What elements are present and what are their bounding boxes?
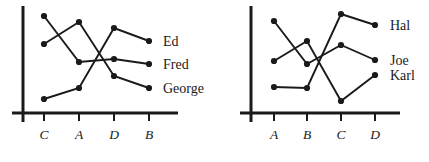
legend-label-george: George [163, 81, 204, 96]
data-point [111, 56, 117, 62]
x-tick-label-1: A [269, 127, 279, 142]
legend-label-karl: Karl [390, 68, 415, 83]
series-line-george [44, 22, 149, 88]
data-point [76, 85, 82, 91]
chart-right-svg: A B C D Hal Joe Karl [215, 0, 429, 162]
chart-panel-right: A B C D Hal Joe Karl [215, 0, 429, 162]
data-point [146, 61, 152, 67]
data-point [271, 18, 277, 24]
data-point [76, 19, 82, 25]
chart-left-svg: C A D B Ed Fred George [0, 0, 215, 162]
data-point [146, 85, 152, 91]
series-line-ed [44, 28, 149, 99]
data-point [338, 98, 344, 104]
data-point [111, 73, 117, 79]
data-point [41, 96, 47, 102]
data-point [271, 58, 277, 64]
legend-label-joe: Joe [390, 53, 409, 68]
data-point [372, 72, 378, 78]
data-point [372, 22, 378, 28]
legend-label-ed: Ed [163, 34, 179, 49]
x-tick-label-4: D [369, 127, 380, 142]
legend-label-fred: Fred [163, 57, 189, 72]
x-tick-label-2: B [303, 127, 311, 142]
chart-panel-left: C A D B Ed Fred George [0, 0, 215, 162]
interaction-plot-figure: C A D B Ed Fred George [0, 0, 429, 162]
x-tick-label-4: B [145, 127, 153, 142]
data-point [146, 38, 152, 44]
data-point [304, 38, 310, 44]
data-point [304, 61, 310, 67]
data-point [271, 84, 277, 90]
data-point [304, 85, 310, 91]
data-point [76, 59, 82, 65]
data-point [41, 13, 47, 19]
data-point [338, 11, 344, 17]
data-point [338, 42, 344, 48]
x-tick-label-2: A [74, 127, 84, 142]
x-tick-label-1: C [39, 127, 49, 142]
series-line-joe [274, 21, 375, 64]
x-tick-label-3: C [336, 127, 346, 142]
data-point [111, 25, 117, 31]
data-point [372, 57, 378, 63]
legend-label-hal: Hal [390, 18, 410, 33]
x-tick-label-3: D [108, 127, 119, 142]
data-point [41, 41, 47, 47]
